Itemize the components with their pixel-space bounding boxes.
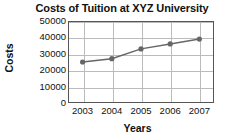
- y-tick-label: 0: [24, 98, 66, 107]
- x-tick-label: 2005: [126, 105, 156, 116]
- line-series-svg: [68, 21, 214, 103]
- data-point-marker: [197, 36, 202, 41]
- y-tick-label: 30000: [24, 49, 66, 58]
- y-axis-label: Costs: [3, 36, 15, 80]
- data-point-marker: [168, 41, 173, 46]
- x-tick-label: 2006: [155, 105, 185, 116]
- y-tick-label: 20000: [24, 65, 66, 74]
- data-series-layer: [68, 21, 214, 103]
- chart-container: Costs of Tuition at XYZ University Costs…: [0, 0, 244, 139]
- x-axis-label: Years: [60, 122, 215, 134]
- chart-title: Costs of Tuition at XYZ University: [0, 2, 244, 14]
- y-tick-label: 50000: [24, 16, 66, 25]
- data-point-marker: [138, 46, 143, 51]
- x-axis-tick-labels: 20032004200520062007: [68, 105, 214, 119]
- data-point-marker: [109, 56, 114, 61]
- y-tick-label: 10000: [24, 82, 66, 91]
- x-tick-label: 2003: [68, 105, 98, 116]
- y-axis-tick-labels: 01000020000300004000050000: [24, 21, 66, 103]
- y-tick-label: 40000: [24, 32, 66, 41]
- x-tick-label: 2004: [97, 105, 127, 116]
- x-tick-label: 2007: [184, 105, 214, 116]
- data-point-marker: [80, 59, 85, 64]
